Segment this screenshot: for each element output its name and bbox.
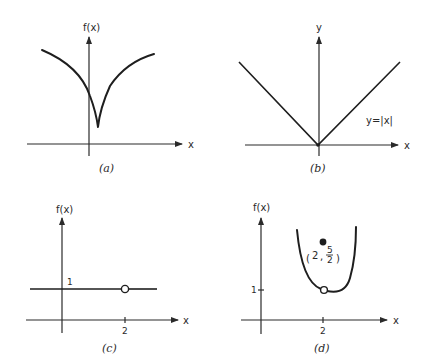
- point-label: ( 2 , 5 2 ): [306, 245, 340, 265]
- y-tick-label: 1: [251, 285, 257, 295]
- x-tick-label: 2: [122, 326, 128, 336]
- svg-text:2: 2: [327, 255, 333, 265]
- panel-c: 1 2 f(x) x (c): [26, 204, 189, 355]
- y-tick-label: 1: [67, 277, 73, 287]
- y-axis-label: f(x): [56, 204, 73, 215]
- filled-point: [320, 239, 327, 246]
- open-point: [321, 287, 328, 294]
- panel-d: ( 2 , 5 2 ) 1 2 f(x) x (d): [241, 202, 399, 355]
- cusp-curve: [42, 50, 154, 127]
- y-axis-label: f(x): [83, 22, 100, 33]
- x-axis-label: x: [183, 315, 189, 326]
- figure-canvas: f(x) x (a) y x y=|x| (b) 1 2 f(x) x (c): [0, 0, 431, 356]
- x-axis-label: x: [404, 140, 410, 151]
- x-axis-label: x: [188, 139, 194, 150]
- panel-caption: (c): [102, 342, 117, 355]
- y-axis-label: f(x): [253, 202, 270, 213]
- panel-a: f(x) x (a): [27, 22, 194, 175]
- svg-text:): ): [336, 253, 340, 264]
- svg-text:(: (: [306, 253, 310, 264]
- panel-b: y x y=|x| (b): [239, 22, 410, 175]
- panel-caption: (d): [314, 342, 330, 355]
- x-axis-label: x: [393, 315, 399, 326]
- panel-caption: (a): [99, 162, 114, 175]
- svg-text:5: 5: [327, 245, 333, 255]
- open-point: [121, 285, 128, 292]
- svg-text:,: ,: [320, 251, 323, 262]
- x-tick-label: 2: [320, 326, 326, 336]
- curve-label: y=|x|: [366, 115, 393, 127]
- panel-caption: (b): [310, 162, 326, 175]
- y-axis-label: y: [316, 22, 322, 33]
- svg-text:2: 2: [312, 250, 318, 261]
- vertex-point: [316, 143, 320, 147]
